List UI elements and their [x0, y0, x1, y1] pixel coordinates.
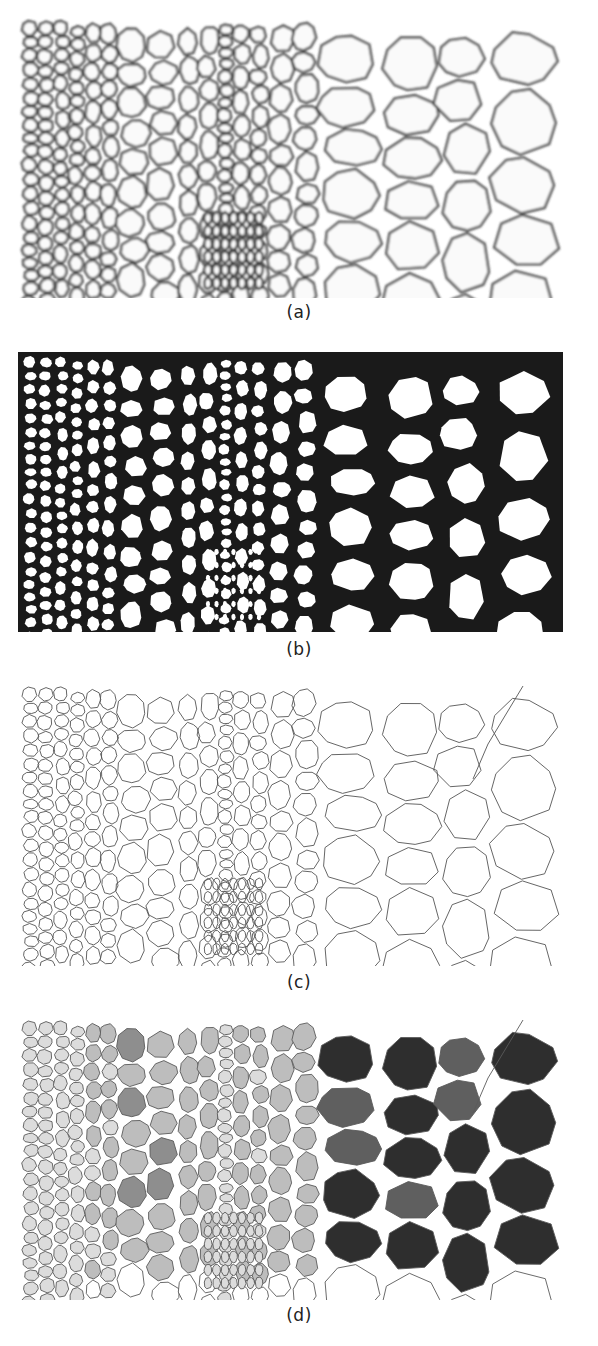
panel-label-d: (d): [0, 1305, 598, 1325]
size-classified-image: [18, 1018, 588, 1300]
panel-d: (d): [0, 0, 598, 1346]
